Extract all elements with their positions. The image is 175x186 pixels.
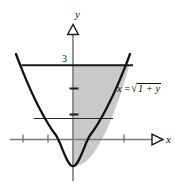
radical-sign-group: √1 + y [130, 83, 161, 95]
triangle-right-outline-icon [152, 134, 163, 145]
equation-radicand: 1 + y [137, 83, 161, 95]
triangle-up-outline-icon [68, 25, 79, 35]
radical-sign-icon: √ [131, 82, 137, 94]
equation-lhs: x [117, 83, 122, 94]
y-tick-label-3: 3 [62, 54, 67, 64]
math-figure: y x 3 x =√1 + y [0, 0, 175, 186]
shaded-region [73, 65, 129, 166]
x-axis-label: x [166, 134, 171, 145]
curve-equation-label: x =√1 + y [117, 83, 161, 95]
y-axis-label: y [75, 9, 80, 20]
